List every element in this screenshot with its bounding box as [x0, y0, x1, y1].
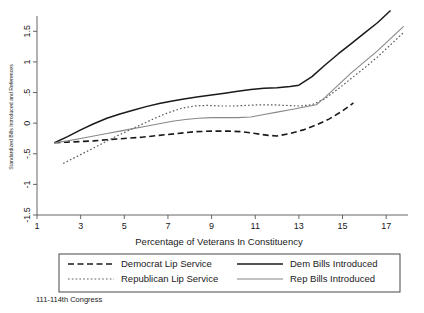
chart-figure: 1357911131517 -1.5-1-.50.511.5 Percentag…	[0, 0, 424, 313]
plot-area: 1357911131517 -1.5-1-.50.511.5	[22, 10, 408, 231]
series-line-1	[63, 33, 403, 164]
series-line-2	[54, 10, 390, 142]
x-tick-label: 1	[34, 221, 39, 231]
x-tick-label: 11	[251, 221, 260, 231]
y-axis-ticks: -1.5-1-.50.511.5	[22, 25, 37, 223]
x-tick-label: 5	[122, 221, 127, 231]
x-tick-label: 15	[338, 221, 348, 231]
x-tick-label: 3	[78, 221, 83, 231]
series-line-0	[54, 103, 353, 143]
x-axis-ticks: 1357911131517	[34, 215, 391, 231]
y-tick-label: 1.5	[22, 25, 32, 38]
y-tick-label: -1	[22, 180, 32, 188]
legend-label: Rep Bills Introduced	[290, 273, 375, 284]
y-axis-title: Standardized Bills Introduced and Refere…	[8, 64, 14, 170]
x-tick-label: 17	[381, 221, 391, 231]
y-tick-label: 0	[22, 121, 32, 126]
y-tick-label: 1	[22, 59, 32, 64]
legend-label: Republican Lip Service	[121, 273, 218, 284]
line-chart: 1357911131517 -1.5-1-.50.511.5 Percentag…	[0, 0, 424, 313]
legend-label: Democrat Lip Service	[121, 258, 212, 269]
axes	[37, 16, 408, 215]
y-tick-label: -1.5	[22, 207, 32, 223]
x-tick-label: 7	[165, 221, 170, 231]
series-lines	[54, 10, 403, 163]
x-tick-label: 13	[294, 221, 304, 231]
x-axis-title: Percentage of Veterans In Constituency	[135, 236, 303, 247]
figure-note: 111-114th Congress	[36, 295, 103, 304]
legend-label: Dem Bills Introduced	[290, 258, 378, 269]
x-tick-label: 9	[209, 221, 214, 231]
chart-legend: Democrat Lip ServiceDem Bills Introduced…	[59, 254, 400, 292]
y-tick-label: .5	[22, 89, 32, 97]
y-tick-label: -.5	[22, 149, 32, 160]
